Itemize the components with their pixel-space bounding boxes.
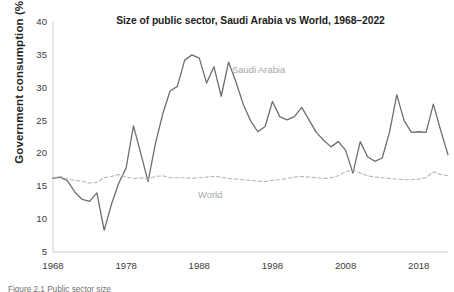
series-line-saudi-arabia — [53, 55, 448, 230]
figure-caption: Figure 2.1 Public sector size — [8, 285, 111, 292]
y-tick-label: 40 — [25, 16, 47, 27]
series-label-world: World — [198, 189, 222, 200]
y-tick-label: 25 — [25, 115, 47, 126]
series-label-saudi-arabia: Saudi Arabia — [232, 64, 285, 75]
x-tick-label: 1968 — [33, 260, 73, 271]
series-line-world — [53, 170, 448, 183]
y-tick-label: 35 — [25, 49, 47, 60]
y-tick-label: 15 — [25, 180, 47, 191]
x-tick-label: 1978 — [106, 260, 146, 271]
y-tick-label: 10 — [25, 213, 47, 224]
chart-plot-area — [0, 0, 454, 292]
y-tick-label: 5 — [25, 246, 47, 257]
x-tick-label: 2008 — [326, 260, 366, 271]
chart-figure: Size of public sector, Saudi Arabia vs W… — [0, 0, 454, 292]
x-tick-label: 1988 — [179, 260, 219, 271]
y-tick-label: 30 — [25, 82, 47, 93]
y-tick-label: 20 — [25, 147, 47, 158]
series-group — [53, 55, 448, 230]
x-tick-label: 2018 — [399, 260, 439, 271]
x-tick-label: 1998 — [252, 260, 292, 271]
